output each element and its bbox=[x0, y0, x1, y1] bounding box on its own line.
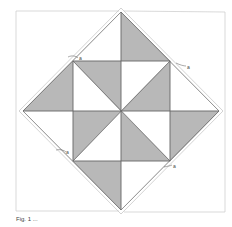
figure-caption: Fig. 1 ... bbox=[16, 216, 38, 222]
marker-label: a bbox=[79, 55, 82, 61]
quilt-block-diagram: a a a a bbox=[0, 0, 232, 227]
marker-label: a bbox=[187, 64, 190, 70]
seam-lines bbox=[23, 12, 219, 210]
marker-label: a bbox=[66, 149, 69, 155]
marker-label: a bbox=[173, 163, 176, 169]
